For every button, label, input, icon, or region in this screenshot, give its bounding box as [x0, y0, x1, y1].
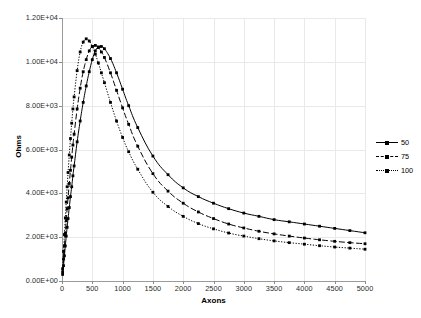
data-point-marker	[318, 238, 321, 241]
data-point-marker	[94, 49, 97, 52]
data-point-marker	[79, 120, 82, 123]
legend-marker-square-icon	[385, 169, 389, 173]
data-point-marker	[258, 237, 261, 240]
data-point-marker	[115, 71, 118, 74]
data-point-marker	[103, 81, 106, 84]
data-point-marker	[76, 69, 79, 72]
data-point-marker	[67, 196, 70, 199]
data-point-marker	[103, 56, 106, 59]
data-point-marker	[85, 58, 88, 61]
legend-label: 100	[401, 166, 413, 176]
data-point-marker	[63, 233, 66, 236]
data-point-marker	[227, 207, 230, 210]
data-point-marker	[212, 202, 215, 205]
data-point-marker	[61, 267, 64, 270]
data-point-marker	[288, 235, 291, 238]
legend-marker-square-icon	[385, 155, 389, 159]
data-point-marker	[65, 201, 68, 204]
data-point-marker	[94, 53, 97, 56]
data-point-marker	[68, 182, 71, 185]
series-50	[61, 45, 366, 276]
data-point-marker	[242, 227, 245, 230]
data-point-marker	[97, 46, 100, 49]
data-point-marker	[109, 71, 112, 74]
data-point-marker	[72, 174, 75, 177]
y-axis-title: Ohms	[14, 117, 23, 177]
series-line-75	[63, 45, 365, 272]
x-axis-title: Axons	[62, 296, 365, 305]
data-point-marker	[76, 108, 79, 111]
legend-key-icon	[376, 152, 398, 162]
legend-key-icon	[376, 138, 398, 148]
data-point-marker	[88, 40, 91, 43]
data-point-marker	[197, 195, 200, 198]
data-point-marker	[167, 173, 170, 176]
chart-container: 0.00E+002.00E+034.00E+036.00E+038.00E+03…	[0, 0, 421, 318]
data-point-marker	[167, 205, 170, 208]
data-point-marker	[69, 169, 72, 172]
data-point-marker	[73, 165, 76, 168]
data-point-marker	[152, 172, 155, 175]
data-point-marker	[227, 232, 230, 235]
data-point-marker	[70, 122, 73, 125]
data-point-marker	[273, 239, 276, 242]
data-point-marker	[127, 123, 130, 126]
legend: 5075100	[376, 136, 413, 178]
legend-marker-square-icon	[385, 141, 389, 145]
data-point-marker	[62, 250, 65, 253]
data-point-marker	[136, 145, 139, 148]
data-point-marker	[69, 195, 72, 198]
data-point-marker	[121, 88, 124, 91]
data-point-marker	[227, 223, 230, 226]
data-point-marker	[73, 96, 76, 99]
series-75	[61, 44, 366, 273]
data-point-marker	[100, 71, 103, 74]
data-point-marker	[88, 70, 91, 73]
data-point-marker	[91, 45, 94, 48]
legend-item-50[interactable]: 50	[376, 136, 413, 150]
data-point-marker	[70, 185, 73, 188]
data-point-marker	[66, 185, 69, 188]
data-point-marker	[333, 240, 336, 243]
data-point-marker	[242, 212, 245, 215]
data-point-marker	[64, 216, 67, 219]
data-point-marker	[136, 126, 139, 129]
data-point-marker	[258, 215, 261, 218]
data-point-marker	[197, 222, 200, 225]
data-point-marker	[303, 243, 306, 246]
data-point-marker	[115, 120, 118, 123]
data-point-marker	[197, 211, 200, 214]
data-point-marker	[127, 104, 130, 107]
data-point-marker	[97, 62, 100, 65]
data-point-marker	[258, 230, 261, 233]
data-point-marker	[72, 108, 75, 111]
data-point-marker	[73, 133, 76, 136]
data-point-marker	[68, 154, 71, 157]
data-point-marker	[121, 106, 124, 109]
data-point-marker	[273, 232, 276, 235]
data-point-marker	[273, 218, 276, 221]
data-point-marker	[242, 235, 245, 238]
data-point-marker	[127, 150, 130, 153]
data-point-marker	[348, 247, 351, 250]
data-point-marker	[167, 190, 170, 193]
data-point-marker	[61, 270, 64, 273]
data-point-marker	[85, 37, 88, 40]
data-point-marker	[364, 242, 367, 245]
data-point-marker	[70, 156, 73, 159]
series-layer	[0, 0, 421, 318]
data-point-marker	[364, 248, 367, 251]
data-point-marker	[94, 44, 97, 47]
data-point-marker	[61, 273, 64, 276]
data-point-marker	[288, 220, 291, 223]
data-point-marker	[333, 246, 336, 249]
legend-item-100[interactable]: 100	[376, 164, 413, 178]
data-point-marker	[115, 89, 118, 92]
data-point-marker	[136, 168, 139, 171]
legend-item-75[interactable]: 75	[376, 150, 413, 164]
data-point-marker	[85, 85, 88, 88]
data-point-marker	[88, 49, 91, 52]
data-point-marker	[69, 137, 72, 140]
data-point-marker	[76, 140, 79, 143]
data-point-marker	[152, 191, 155, 194]
